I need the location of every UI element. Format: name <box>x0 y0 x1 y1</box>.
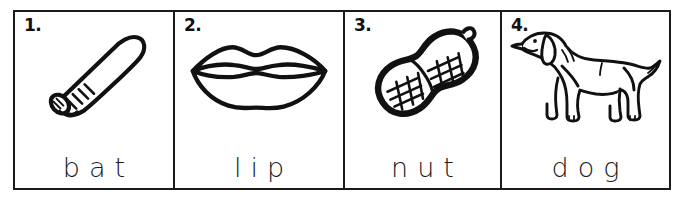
worksheet-item-2[interactable]: 2. lip <box>175 12 345 188</box>
item-number-4: 4. <box>511 17 528 34</box>
item-number-1: 1. <box>24 17 41 34</box>
word-label-1: bat <box>15 154 173 182</box>
worksheet-item-3[interactable]: 3. <box>345 12 502 188</box>
word-label-2: lip <box>175 154 343 182</box>
worksheet-item-1[interactable]: 1. <box>15 12 175 188</box>
word-label-4: dog <box>502 154 669 182</box>
worksheet-frame: 1. <box>13 10 671 190</box>
worksheet: 1. <box>0 0 682 199</box>
word-label-3: nut <box>345 154 500 182</box>
item-number-2: 2. <box>184 17 201 34</box>
item-number-3: 3. <box>354 17 371 34</box>
worksheet-item-4[interactable]: 4. <box>502 12 669 188</box>
